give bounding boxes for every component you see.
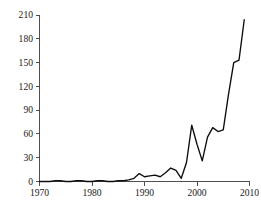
y-tick-label: 210	[19, 9, 34, 20]
x-tick-label: 2000	[187, 187, 206, 198]
x-tick-label: 1980	[82, 187, 101, 198]
y-tick-label: 180	[19, 33, 34, 44]
x-tick-label: 2010	[240, 187, 259, 198]
x-tick-label: 1990	[135, 187, 154, 198]
y-tick-label: 0	[28, 176, 33, 187]
chart-container: 0306090120150180210 19701980199020002010	[0, 0, 261, 208]
line-chart: 0306090120150180210 19701980199020002010	[0, 0, 261, 208]
y-tick-label: 60	[23, 128, 33, 139]
y-tick-label: 150	[19, 57, 34, 68]
y-tick-label: 30	[23, 152, 33, 163]
y-tick-label: 90	[23, 104, 33, 115]
x-tick-label: 1970	[30, 187, 49, 198]
y-tick-label: 120	[19, 81, 34, 92]
